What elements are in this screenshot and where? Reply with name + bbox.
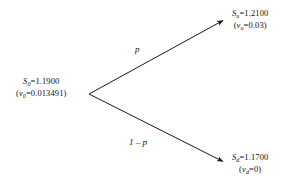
node-root-label: S0=1.1900 (v0=0.013491) [16,76,66,100]
node-root-price: S0=1.1900 [16,76,66,88]
binomial-tree-figure: S0=1.1900 (v0=0.013491) Su=1.2100 (vu=0.… [0,0,295,189]
branch-label-down-probability: 1 – p [129,137,147,147]
node-down-variance: (vd=0) [232,164,268,176]
branch-down-arrow [89,94,223,162]
branch-up-arrow [89,21,223,95]
node-down-label: Sd=1.1700 (vd=0) [232,152,268,176]
node-root-variance: (v0=0.013491) [16,88,66,100]
node-up-label: Su=1.2100 (vu=0.03) [232,8,268,32]
node-up-price: Su=1.2100 [232,8,268,20]
node-down-price: Sd=1.1700 [232,152,268,164]
branch-label-up-probability: p [135,44,140,54]
node-up-variance: (vu=0.03) [232,20,268,32]
